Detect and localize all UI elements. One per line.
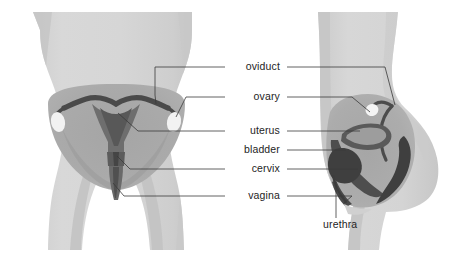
label-vagina: vagina [248, 189, 280, 201]
label-bladder: bladder [244, 143, 280, 155]
diagram-canvas: oviduct ovary uterus bladder cervix vagi… [0, 0, 450, 258]
label-cervix: cervix [252, 162, 281, 174]
label-oviduct: oviduct [246, 60, 280, 72]
label-urethra: urethra [323, 218, 357, 230]
frontal-cervix-canal [113, 152, 119, 166]
anatomy-diagram-figure: oviduct ovary uterus bladder cervix vagi… [0, 0, 450, 258]
label-uterus: uterus [250, 124, 280, 136]
label-ovary: ovary [254, 90, 281, 102]
